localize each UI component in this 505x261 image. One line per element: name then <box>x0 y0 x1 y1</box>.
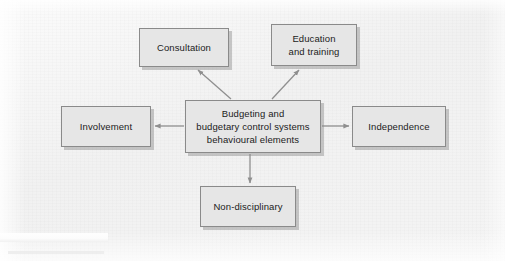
connector-central-to-education <box>272 70 299 99</box>
node-consultation-label: Consultation <box>157 41 211 54</box>
bottom-left-scan-line <box>8 251 104 254</box>
bottom-left-scan-artifact <box>0 233 108 242</box>
node-independence-label: Independence <box>368 120 429 133</box>
node-education-and-training-label: Education and training <box>289 32 340 58</box>
node-non-disciplinary[interactable]: Non-disciplinary <box>200 186 296 227</box>
node-central-budgeting[interactable]: Budgeting and budgetary control systems … <box>185 100 321 153</box>
node-independence[interactable]: Independence <box>352 106 446 147</box>
node-consultation[interactable]: Consultation <box>139 28 229 67</box>
node-non-disciplinary-label: Non-disciplinary <box>213 200 282 213</box>
node-education-and-training[interactable]: Education and training <box>271 24 357 66</box>
node-involvement[interactable]: Involvement <box>61 106 151 147</box>
diagram-canvas: Consultation Education and training Invo… <box>0 0 505 261</box>
node-central-budgeting-label: Budgeting and budgetary control systems … <box>196 107 309 146</box>
connector-central-to-consultation <box>198 70 231 99</box>
node-involvement-label: Involvement <box>80 120 132 133</box>
